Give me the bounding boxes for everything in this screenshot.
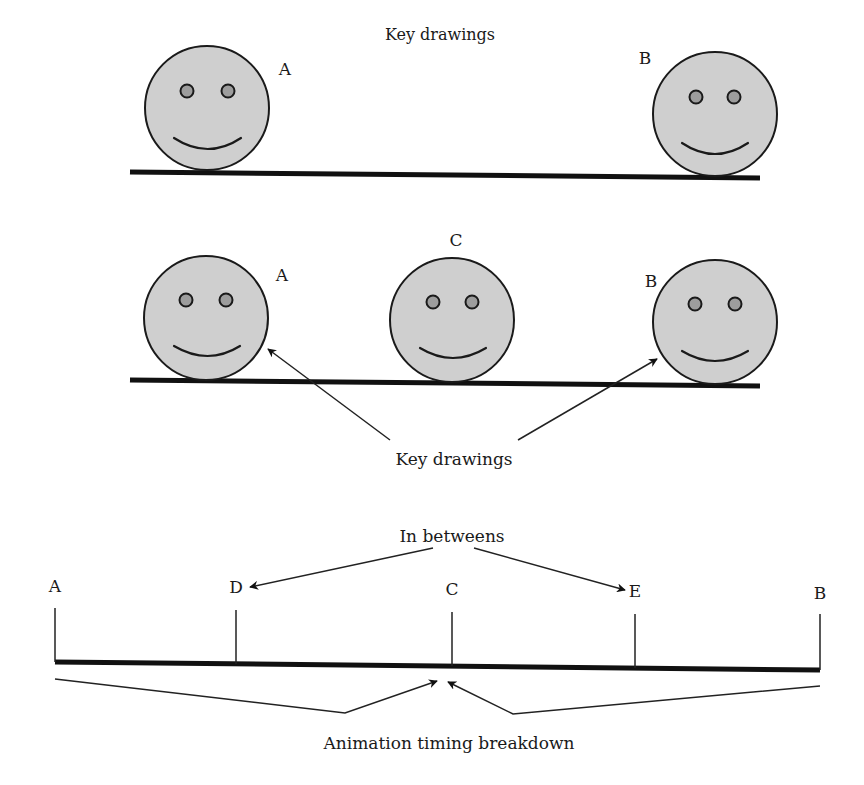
face-circle — [390, 258, 514, 382]
face-circle — [653, 260, 777, 384]
tick-label-c: C — [445, 579, 458, 599]
timing-arrow-left — [55, 679, 437, 713]
face-c — [390, 258, 514, 382]
left-eye — [689, 298, 702, 311]
face-b-label: B — [639, 48, 652, 68]
arrow-to-e — [474, 548, 625, 590]
face-b-1 — [653, 52, 777, 176]
animation-timing-callout: Animation timing breakdown — [323, 733, 575, 753]
right-eye — [466, 296, 479, 309]
tick-label-e: E — [629, 581, 641, 601]
panel-1-key-drawings: Key drawings A B — [130, 25, 777, 178]
arrow-to-face-b — [518, 359, 657, 440]
key-drawings-diagram: Key drawings A B A — [0, 0, 864, 785]
face-a-1 — [145, 46, 269, 170]
right-eye — [222, 85, 235, 98]
left-eye — [181, 85, 194, 98]
face-a-label: A — [278, 59, 292, 79]
left-eye — [180, 294, 193, 307]
timeline-bar — [55, 662, 820, 670]
face-circle — [145, 46, 269, 170]
right-eye — [729, 298, 742, 311]
right-eye — [728, 91, 741, 104]
timeline-ticks: ADCEB — [48, 576, 826, 670]
face-b-2 — [653, 260, 777, 384]
timing-arrow-right — [448, 682, 820, 714]
face-c-label: C — [449, 230, 462, 250]
left-eye — [690, 91, 703, 104]
ground-line-1 — [130, 172, 760, 178]
left-eye — [427, 296, 440, 309]
right-eye — [220, 294, 233, 307]
tick-label-a: A — [48, 576, 62, 596]
arrow-to-face-a — [268, 349, 390, 440]
face-circle — [653, 52, 777, 176]
in-betweens-callout: In betweens — [399, 526, 504, 546]
tick-label-d: D — [229, 577, 243, 597]
face-circle — [144, 256, 268, 380]
panel-3-timing: In betweens ADCEB Animation timing break… — [48, 526, 826, 753]
face-a-2 — [144, 256, 268, 380]
tick-label-b: B — [814, 583, 827, 603]
arrow-to-d — [250, 548, 433, 587]
face-b-label-2: B — [645, 271, 658, 291]
panel-2-with-c: A C B Key drawings — [130, 230, 777, 469]
face-a-label-2: A — [275, 265, 289, 285]
key-drawings-callout: Key drawings — [396, 449, 513, 469]
panel-1-title: Key drawings — [385, 25, 495, 44]
